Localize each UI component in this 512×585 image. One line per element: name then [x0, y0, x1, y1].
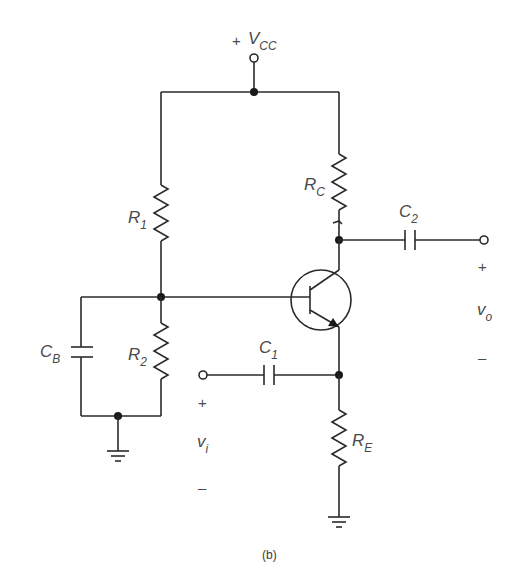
npn-transistor — [291, 270, 351, 375]
vi-minus: – — [198, 479, 207, 496]
collector-node — [335, 236, 343, 270]
circuit-diagram: + VCC R1 RC C2 R2 CB C1 RE + vo – + vi –… — [0, 0, 512, 585]
resistor-re — [332, 375, 346, 517]
base-rail — [81, 293, 310, 301]
re-label: RE — [352, 431, 373, 455]
vcc-label: VCC — [248, 29, 277, 53]
vo-minus: – — [478, 349, 487, 366]
r1-label: R1 — [128, 208, 147, 232]
vcc-plus-sign: + — [232, 32, 241, 49]
rc-label: RC — [304, 175, 325, 199]
capacitor-cb — [71, 297, 93, 416]
ground-right-icon — [328, 517, 350, 527]
r2-label: R2 — [128, 345, 147, 369]
top-rail — [161, 88, 339, 96]
vo-plus: + — [478, 258, 487, 275]
c1-label: C1 — [259, 338, 278, 362]
bottom-rail — [81, 412, 161, 451]
ground-left-icon — [107, 451, 129, 461]
figure-caption: (b) — [262, 548, 277, 562]
vi-plus: + — [198, 394, 207, 411]
input-terminal — [199, 371, 207, 379]
capacitor-c2 — [339, 230, 480, 250]
resistor-rc — [332, 92, 346, 240]
cb-label: CB — [40, 342, 60, 366]
vcc-supply — [250, 54, 258, 92]
c2-label: C2 — [399, 202, 418, 226]
resistor-r1 — [154, 92, 168, 297]
output-terminal — [480, 236, 488, 244]
vo-label: vo — [477, 300, 493, 324]
vi-label: vi — [197, 432, 209, 456]
resistor-r2 — [154, 297, 168, 416]
capacitor-c1 — [207, 365, 339, 385]
